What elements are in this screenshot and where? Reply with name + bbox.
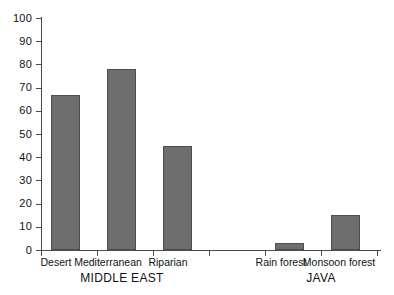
y-axis-tick	[36, 18, 41, 19]
y-axis-tick	[36, 204, 41, 205]
plot-area	[42, 18, 380, 250]
x-axis-label-mediterranean: Mediterranean	[71, 256, 145, 268]
y-axis-label-10: 10	[19, 221, 32, 232]
y-axis-label-100: 100	[13, 13, 32, 24]
y-axis-label-70: 70	[19, 82, 32, 93]
y-axis-tick	[36, 41, 41, 42]
y-axis-label-30: 30	[19, 175, 32, 186]
y-axis-tick	[36, 157, 41, 158]
y-axis-label-80: 80	[19, 59, 32, 70]
y-axis-label-0: 0	[26, 245, 32, 256]
y-axis-tick	[36, 64, 41, 65]
y-axis-tick	[36, 134, 41, 135]
y-axis-label-20: 20	[19, 198, 32, 209]
y-axis-tick	[36, 88, 41, 89]
bar-chart: 100 90 80 70 60 50 40 30 20 10 0 Desert …	[0, 0, 394, 295]
bar-monsoon-forest	[331, 215, 360, 250]
y-axis-tick	[36, 111, 41, 112]
x-axis-label-monsoon-forest: Monsoon forest	[297, 256, 381, 268]
bar-desert	[51, 95, 80, 250]
x-axis-tick	[209, 251, 210, 256]
bar-mediterranean	[107, 69, 136, 250]
bar-rain-forest	[275, 243, 304, 250]
y-axis-label-60: 60	[19, 105, 32, 116]
y-axis-tick	[36, 180, 41, 181]
group-label-middle-east: MIDDLE EAST	[52, 272, 192, 285]
y-axis-tick	[36, 227, 41, 228]
x-axis-line	[41, 250, 381, 251]
group-label-java: JAVA	[266, 272, 376, 285]
x-axis-label-riparian: Riparian	[137, 256, 199, 268]
y-axis-label-40: 40	[19, 152, 32, 163]
y-axis-label-90: 90	[19, 36, 32, 47]
bar-riparian	[163, 146, 192, 250]
y-axis-label-50: 50	[19, 129, 32, 140]
